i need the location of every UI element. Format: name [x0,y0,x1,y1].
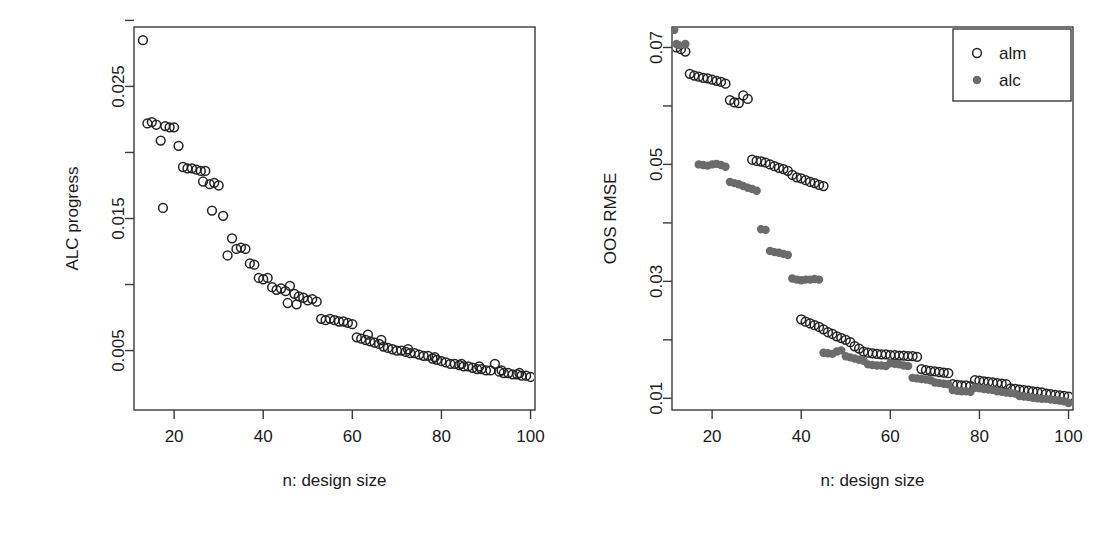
x-tick-label: 80 [970,427,989,446]
x-tick-label: 100 [1054,427,1082,446]
data-point-alc [139,36,148,45]
y-tick-label: 0.05 [647,148,666,181]
y-axis: 0.0050.0150.025 [109,20,134,371]
y-tick-label: 0.03 [647,265,666,298]
x-axis: 20406080100 [165,410,545,446]
x-axis: 20406080100 [703,410,1083,446]
data-point-alc [283,299,292,308]
x-tick-label: 60 [881,427,900,446]
legend-label-alc: alc [999,71,1021,90]
x-tick-label: 20 [703,427,722,446]
data-point-alc [784,251,792,259]
panel-alc-progress: 204060801000.0050.0150.025n: design size… [0,0,556,533]
plot-frame [134,27,535,410]
y-tick-label: 0.01 [647,382,666,415]
data-point-alc [815,275,823,283]
legend-box [953,29,1071,101]
data-point-alc [761,226,769,234]
data-point-alc [159,204,168,213]
data-point-alc [156,136,165,145]
data-point-alc [1064,399,1072,407]
data-point-alc [174,141,183,150]
y-tick-label: 0.025 [109,65,128,108]
series-alc [139,36,535,382]
data-point-alc [292,300,301,309]
data-point-alc [752,187,760,195]
y-axis-title: OOS RMSE [601,173,620,265]
x-tick-label: 40 [792,427,811,446]
legend: almalc [953,29,1071,101]
data-point-alc [219,211,228,220]
x-tick-label: 20 [165,427,184,446]
x-tick-label: 100 [516,427,544,446]
oos-rmse-scatter-plot: 204060801000.010.030.050.07n: design siz… [556,0,1113,533]
x-tick-label: 60 [343,427,362,446]
x-axis-title: n: design size [283,471,387,490]
x-axis-title: n: design size [821,471,925,490]
data-point-alc [208,206,217,215]
alc-progress-scatter-plot: 204060801000.0050.0150.025n: design size… [0,0,556,533]
y-tick-label: 0.005 [109,329,128,372]
data-points-group [139,36,535,382]
y-axis: 0.010.030.050.07 [647,31,672,415]
y-tick-label: 0.07 [647,31,666,64]
data-point-alc [228,234,237,243]
data-point-alc [223,251,232,260]
legend-label-alm: alm [999,44,1026,63]
data-point-alc [721,163,729,171]
y-axis-title: ALC progress [63,167,82,271]
panel-oos-rmse: 204060801000.010.030.050.07n: design siz… [556,0,1113,533]
data-point-alc [681,40,689,48]
x-tick-label: 40 [254,427,273,446]
figure-root: 204060801000.0050.0150.025n: design size… [0,0,1113,533]
legend-marker-alc [973,76,981,84]
data-point-alc [904,362,912,370]
y-tick-label: 0.015 [109,197,128,240]
x-tick-label: 80 [432,427,451,446]
